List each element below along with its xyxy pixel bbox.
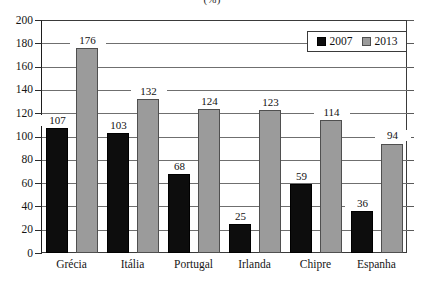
- right-axis-tick: [407, 160, 414, 161]
- bar-value-label: 103: [101, 120, 137, 131]
- legend-item-2013: 2013: [362, 36, 398, 47]
- bar-2013-Portugal: [198, 109, 220, 253]
- y-axis-tick-label: 40: [0, 201, 33, 212]
- y-axis-tick-label: 140: [0, 84, 33, 95]
- bar-value-label: 107: [40, 115, 76, 126]
- bar-value-label: 25: [223, 211, 259, 222]
- bar-value-label: 94: [375, 130, 411, 141]
- y-axis-tick-label: 20: [0, 224, 33, 235]
- y-axis-tick: [35, 253, 42, 254]
- legend-item-2007: 2007: [317, 36, 353, 47]
- bar-2007-Itália: [107, 133, 129, 253]
- bar-value-label: 124: [192, 96, 228, 107]
- right-axis-tick: [407, 230, 414, 231]
- y-axis-tick-label: 120: [0, 108, 33, 119]
- bar-value-label: 59: [284, 171, 320, 182]
- x-axis-category-label: Grécia: [41, 258, 102, 270]
- bar-2013-Irlanda: [259, 110, 281, 253]
- right-axis-tick: [407, 20, 414, 21]
- bar-2007-Irlanda: [229, 224, 251, 253]
- bar-value-label: 132: [131, 86, 167, 97]
- bar-value-label: 176: [70, 35, 106, 46]
- bar-2013-Grécia: [76, 48, 98, 253]
- legend-item-label: 2007: [330, 36, 353, 47]
- right-axis-tick: [407, 90, 414, 91]
- x-axis-category-label: Irlanda: [224, 258, 285, 270]
- x-axis-category-label: Portugal: [163, 258, 224, 270]
- bar-2007-Portugal: [168, 174, 190, 253]
- right-axis-tick: [407, 206, 414, 207]
- y-axis-tick-label: 80: [0, 154, 33, 165]
- right-axis-tick: [407, 183, 414, 184]
- bar-value-label: 123: [253, 97, 289, 108]
- y-axis-tick-label: 160: [0, 61, 33, 72]
- bar-value-label: 36: [345, 198, 381, 209]
- chart-unit-label: (%): [0, 0, 424, 5]
- bar-value-label: 68: [162, 161, 198, 172]
- y-axis-tick-label: 200: [0, 15, 33, 26]
- bars-layer: 1071761031326812425123591143694: [41, 20, 407, 253]
- y-axis-tick-label: 0: [0, 248, 33, 259]
- right-axis-tick: [407, 43, 414, 44]
- right-axis-tick: [407, 67, 414, 68]
- y-axis-tick-label: 100: [0, 131, 33, 142]
- bar-2007-Grécia: [46, 128, 68, 253]
- grouped-bar-chart: (%) 020406080100120140160180200 10717610…: [0, 0, 424, 288]
- gray-square-icon: [362, 37, 371, 46]
- legend-item-label: 2013: [375, 36, 398, 47]
- x-axis-category-label: Chipre: [285, 258, 346, 270]
- bar-2007-Chipre: [290, 184, 312, 253]
- right-axis-tick: [407, 113, 414, 114]
- bar-2013-Chipre: [320, 120, 342, 253]
- x-axis-category-label: Espanha: [346, 258, 407, 270]
- bar-value-label: 114: [314, 107, 350, 118]
- y-axis-tick-label: 180: [0, 38, 33, 49]
- bar-2013-Itália: [137, 99, 159, 253]
- bar-2007-Espanha: [351, 211, 373, 253]
- black-square-icon: [317, 37, 326, 46]
- bar-2013-Espanha: [381, 144, 403, 254]
- y-axis-tick-label: 60: [0, 178, 33, 189]
- x-axis-category-label: Itália: [102, 258, 163, 270]
- chart-legend: 2007 2013: [307, 31, 407, 52]
